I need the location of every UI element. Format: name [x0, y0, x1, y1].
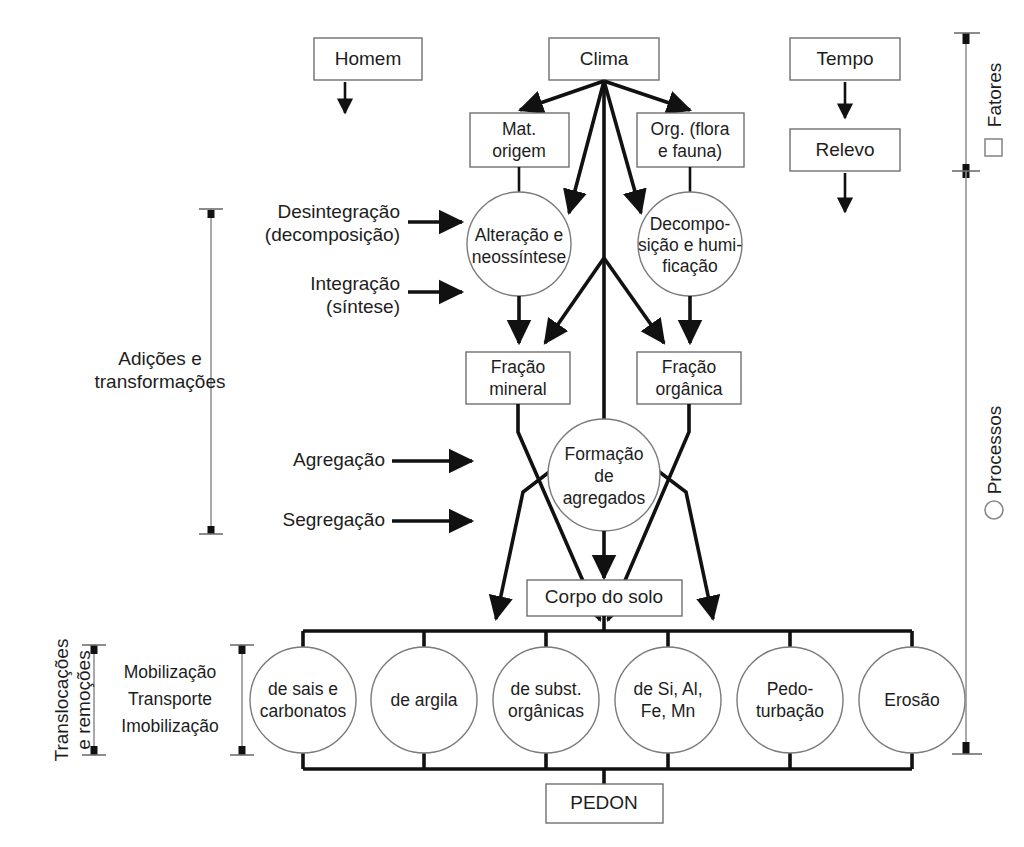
label-mobilizacao-line1: Mobilização	[124, 662, 216, 682]
arrow-clima-matorigem	[520, 81, 604, 110]
arrow-clima-alteracao	[569, 81, 604, 213]
box-pedon-label: PEDON	[570, 792, 638, 813]
label-adicoes-line1: Adições e	[118, 348, 201, 369]
translocation-circle-1[interactable]: de sais e carbonatos	[250, 647, 356, 753]
circle-decomposicao-humificacao[interactable]: Decompo- sição e humi- ficação	[638, 192, 742, 296]
translocation-circle-5[interactable]: Pedo- turbação	[737, 647, 843, 753]
box-mat-origem-line2: origem	[492, 141, 546, 161]
translocation-circle-5-line2: turbação	[756, 701, 824, 721]
box-clima-label: Clima	[580, 48, 629, 69]
translocation-circle-1-line2: carbonatos	[260, 701, 347, 721]
label-integracao-line1: Integração	[310, 273, 400, 294]
bracket-fatores	[952, 33, 980, 178]
soil-formation-diagram: Homem Clima Tempo Relevo Mat. origem Org…	[0, 0, 1024, 847]
box-clima[interactable]: Clima	[549, 38, 659, 80]
translocation-circle-4-line1: de Si, Al,	[633, 679, 702, 699]
label-desintegracao-line1: Desintegração	[277, 201, 400, 222]
arrow-clima-org	[604, 81, 690, 110]
label-mobilizacao-line3: Imobilização	[121, 716, 218, 736]
box-homem-label: Homem	[335, 48, 402, 69]
circle-marker-icon	[985, 501, 1003, 519]
label-processos: Processos	[984, 406, 1005, 495]
bracket-processos	[952, 171, 982, 754]
label-desintegracao-line2: (decomposição)	[265, 224, 400, 245]
circle-formacao-line2: de	[594, 466, 613, 486]
box-mat-origem-line1: Mat.	[502, 119, 536, 139]
box-fracao-organica-line2: orgânica	[655, 379, 722, 399]
circle-alteracao-line1: Alteração e	[475, 225, 564, 245]
label-agregacao: Agregação	[293, 449, 385, 470]
label-integracao-line2: (síntese)	[326, 296, 400, 317]
circle-alteracao-neossintese[interactable]: Alteração e neossíntese	[467, 192, 571, 296]
translocation-circle-4[interactable]: de Si, Al, Fe, Mn	[615, 647, 721, 753]
label-mobilizacao-line2: Transporte	[128, 689, 212, 709]
circle-alteracao-line2: neossíntese	[472, 247, 566, 267]
circle-decomposicao-line2: sição e humi-	[638, 235, 742, 255]
box-corpo-do-solo[interactable]: Corpo do solo	[527, 580, 682, 616]
box-relevo[interactable]: Relevo	[790, 129, 900, 171]
box-organismos[interactable]: Org. (flora e fauna)	[637, 113, 744, 167]
box-fracao-mineral-line2: mineral	[489, 379, 546, 399]
circle-decomposicao-line3: ficação	[662, 256, 717, 276]
box-tempo[interactable]: Tempo	[790, 38, 900, 80]
translocation-circle-3-line2: orgânicas	[508, 701, 584, 721]
circle-formacao-agregados[interactable]: Formação de agregados	[548, 419, 660, 531]
label-fatores: Fatores	[984, 63, 1005, 127]
box-corpo-do-solo-label: Corpo do solo	[545, 586, 663, 607]
box-organismos-line2: e fauna)	[658, 141, 722, 161]
circle-decomposicao-line1: Decompo-	[650, 214, 731, 234]
translocation-circle-2-line1: de argila	[390, 690, 457, 710]
circle-formacao-line1: Formação	[565, 444, 644, 464]
box-organismos-line1: Org. (flora	[651, 119, 730, 139]
diagram-canvas: Homem Clima Tempo Relevo Mat. origem Org…	[0, 0, 1024, 847]
translocation-circle-1-line1: de sais e	[268, 679, 338, 699]
box-fracao-mineral[interactable]: Fração mineral	[466, 352, 570, 404]
translocation-circle-4-line2: Fe, Mn	[641, 701, 695, 721]
box-relevo-label: Relevo	[815, 139, 874, 160]
box-mat-origem[interactable]: Mat. origem	[470, 113, 569, 167]
box-fracao-organica-line1: Fração	[662, 357, 716, 377]
label-translocacoes-line1: Translocações	[51, 639, 72, 762]
circle-formacao-line3: agregados	[563, 488, 646, 508]
square-marker-icon	[985, 139, 1002, 156]
label-adicoes-line2: transformações	[95, 371, 226, 392]
label-translocacoes-line2: e remoções	[73, 650, 94, 749]
label-segregacao: Segregação	[283, 509, 385, 530]
box-fracao-mineral-line1: Fração	[491, 357, 545, 377]
box-homem[interactable]: Homem	[314, 38, 422, 80]
box-fracao-organica[interactable]: Fração orgânica	[637, 352, 741, 404]
translocation-circle-5-line1: Pedo-	[767, 679, 814, 699]
translocation-circle-2[interactable]: de argila	[371, 647, 477, 753]
box-pedon[interactable]: PEDON	[546, 784, 663, 823]
box-tempo-label: Tempo	[816, 48, 873, 69]
translocation-circle-3-line1: de subst.	[510, 679, 581, 699]
translocation-circle-3[interactable]: de subst. orgânicas	[493, 647, 599, 753]
translocation-circle-6-line1: Erosão	[884, 690, 939, 710]
translocation-circle-6[interactable]: Erosão	[859, 647, 965, 753]
arrow-clima-decomposicao	[604, 81, 641, 213]
